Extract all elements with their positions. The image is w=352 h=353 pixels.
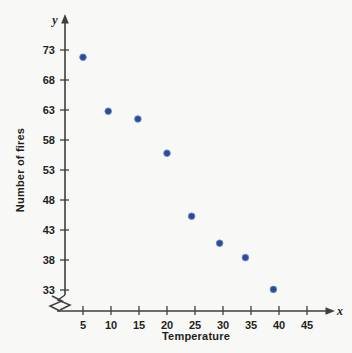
y-axis-symbol-label: y	[50, 13, 58, 27]
plot-canvas: y x 333843485358636873 51015202530354045…	[0, 0, 352, 353]
data-point	[135, 116, 142, 123]
y-tick-label: 58	[43, 134, 55, 146]
y-tick-label: 38	[43, 254, 55, 266]
data-point	[188, 213, 195, 220]
data-point	[80, 54, 87, 61]
x-tick-label: 5	[80, 319, 86, 331]
data-point-group	[80, 54, 277, 293]
y-tick-label: 48	[43, 194, 55, 206]
x-tick-label: 15	[133, 319, 145, 331]
x-tick-label: 35	[245, 319, 257, 331]
x-tick-label: 40	[273, 319, 285, 331]
y-tick-label: 73	[43, 44, 55, 56]
x-tick-label: 10	[105, 319, 117, 331]
data-point	[216, 240, 223, 247]
x-axis-title: Temperature	[162, 330, 230, 342]
data-point	[105, 108, 112, 115]
data-point	[164, 150, 171, 157]
y-tick-label: 43	[43, 224, 55, 236]
x-tick-label: 45	[301, 319, 313, 331]
x-tick-group: 51015202530354045	[80, 306, 313, 331]
data-point	[242, 254, 249, 261]
y-tick-label: 53	[43, 164, 55, 176]
x-axis: x	[57, 304, 343, 318]
y-tick-label: 68	[43, 74, 55, 86]
y-tick-label: 33	[43, 284, 55, 296]
y-tick-label: 63	[43, 104, 55, 116]
data-point	[270, 286, 277, 293]
x-axis-symbol-label: x	[336, 304, 343, 318]
scatter-plot-figure: y x 333843485358636873 51015202530354045…	[0, 0, 352, 353]
y-axis-arrow-icon	[61, 14, 69, 24]
x-axis-arrow-icon	[326, 307, 336, 315]
y-axis-title: Number of fires	[14, 128, 26, 212]
